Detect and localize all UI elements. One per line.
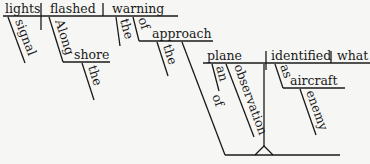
word-clause-modifier-prep: of bbox=[209, 92, 228, 110]
word-subject-modifier: signal bbox=[12, 17, 40, 58]
word-clause-object: what bbox=[337, 48, 368, 63]
sentence-diagram: lights flashed warning signal Along shor… bbox=[0, 0, 370, 164]
word-verb-modifier-object: shore bbox=[74, 47, 109, 62]
word-direct-object: warning bbox=[112, 1, 164, 16]
word-clause-subject: plane bbox=[207, 48, 242, 63]
word-subject: lights bbox=[5, 1, 41, 16]
word-verb: flashed bbox=[50, 1, 96, 16]
word-clause-complement-object: aircraft bbox=[290, 73, 338, 88]
word-clause-verb: identified bbox=[271, 48, 331, 63]
word-prep-object: approach bbox=[152, 26, 211, 41]
word-clause-modifier: observation bbox=[231, 62, 271, 137]
pedestal-foot bbox=[255, 146, 273, 155]
